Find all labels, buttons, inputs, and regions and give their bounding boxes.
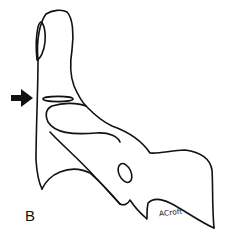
diagonal-line bbox=[50, 132, 120, 204]
lower-outline bbox=[42, 169, 120, 204]
ring-ellipse bbox=[43, 96, 73, 101]
panel-label: B bbox=[25, 207, 35, 224]
arrow-right-icon bbox=[11, 89, 33, 107]
upper-outline bbox=[37, 10, 86, 106]
body-outline bbox=[86, 106, 214, 228]
oval-hole bbox=[115, 161, 134, 184]
anatomical-line-drawing bbox=[0, 0, 225, 237]
left-outline bbox=[36, 60, 42, 189]
inner-fold bbox=[46, 103, 120, 142]
